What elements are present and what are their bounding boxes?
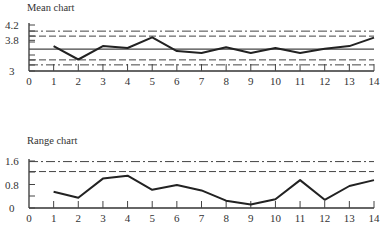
x-tick-label: 13 <box>344 212 356 224</box>
x-tick-label: 8 <box>223 75 229 87</box>
mean-chart: Mean chart33.84.201234567891011121314 <box>5 2 380 87</box>
x-tick-label: 3 <box>100 212 106 224</box>
x-tick-label: 14 <box>369 75 381 87</box>
x-tick-label: 1 <box>51 75 57 87</box>
x-tick-label: 8 <box>223 212 229 224</box>
x-tick-label: 5 <box>149 212 155 224</box>
x-tick-label: 2 <box>76 75 82 87</box>
x-tick-label: 14 <box>369 212 381 224</box>
x-tick-label: 4 <box>125 75 131 87</box>
x-tick-label: 7 <box>199 75 205 87</box>
x-tick-label: 0 <box>26 212 32 224</box>
x-tick-label: 9 <box>248 75 254 87</box>
x-tick-label: 5 <box>149 75 155 87</box>
x-tick-label: 12 <box>319 212 330 224</box>
x-tick-label: 13 <box>344 75 356 87</box>
chart-title: Range chart <box>27 135 78 146</box>
chart-canvas: Mean chart33.84.201234567891011121314Ran… <box>0 0 389 235</box>
x-tick-label: 10 <box>270 212 282 224</box>
y-tick-label: 4.2 <box>5 19 19 31</box>
data-series-line <box>54 37 374 59</box>
x-tick-label: 4 <box>125 212 131 224</box>
control-charts: Mean chart33.84.201234567891011121314Ran… <box>0 0 389 235</box>
range-chart: Range chart00.81.601234567891011121314 <box>5 135 380 224</box>
x-tick-label: 3 <box>100 75 106 87</box>
x-tick-label: 7 <box>199 212 205 224</box>
x-tick-label: 11 <box>295 212 306 224</box>
x-tick-label: 6 <box>174 75 180 87</box>
y-tick-label: 3 <box>9 65 15 77</box>
y-tick-label: 3.8 <box>5 34 19 46</box>
x-tick-label: 2 <box>76 212 82 224</box>
x-tick-label: 11 <box>295 75 306 87</box>
x-tick-label: 6 <box>174 212 180 224</box>
y-tick-label: 0 <box>9 202 15 214</box>
x-tick-label: 12 <box>319 75 330 87</box>
y-tick-label: 1.6 <box>5 155 19 167</box>
data-series-line <box>54 176 374 205</box>
x-tick-label: 1 <box>51 212 57 224</box>
x-tick-label: 10 <box>270 75 282 87</box>
x-tick-label: 9 <box>248 212 254 224</box>
chart-title: Mean chart <box>27 2 75 13</box>
y-tick-label: 0.8 <box>5 179 19 191</box>
x-tick-label: 0 <box>26 75 32 87</box>
